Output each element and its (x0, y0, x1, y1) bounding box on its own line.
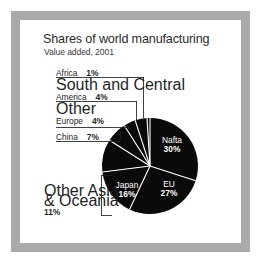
chart-figure: Shares of world manufacturing Value adde… (0, 0, 260, 265)
callout-other-europe-line2: Europe 4% (56, 114, 104, 127)
callout-other-europe-line1: Other (56, 104, 104, 114)
callout-south-central-america: South and Central America 4% (56, 80, 185, 102)
callout-other-europe: Other Europe 4% (56, 104, 104, 126)
chart-title: Shares of world manufacturing (43, 32, 209, 46)
slice-label-eu-percent: 27% (157, 189, 181, 198)
callout-other-asia-oceania: Other Asia & Oceania 11% (44, 186, 119, 218)
slice-label-nafta: Nafta 30% (155, 136, 189, 154)
callout-china-line1: China 7% (56, 130, 99, 143)
callout-oasia-line2: & Oceania (44, 196, 119, 206)
callout-china: China 7% (56, 130, 99, 143)
slice-label-eu: EU 27% (157, 180, 181, 198)
chart-subtitle: Value added, 2001 (44, 47, 114, 57)
callout-sca-line1: South and Central (56, 80, 185, 90)
slice-label-nafta-percent: 30% (155, 145, 189, 154)
